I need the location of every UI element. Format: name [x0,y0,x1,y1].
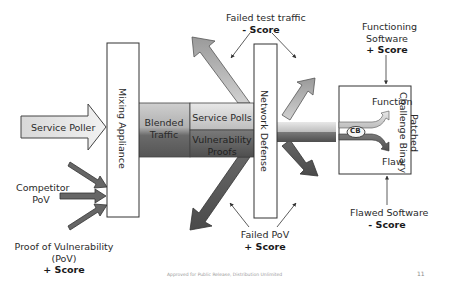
rejected-pov-arrow [190,157,250,230]
network-defense-label: Network Defense [259,90,270,172]
blended-traffic-label: Blended Traffic [140,117,188,140]
functioning-software-label: Functioning Software + Score [362,21,412,56]
failed-pov-label: Failed PoV + Score [240,229,290,252]
polls-to-cb-band [276,122,336,132]
pov-label: Proof of Vulnerability (PoV) + Score [14,241,114,276]
service-polls-label: Service Polls [191,112,253,124]
vulnerability-proofs-label: Vulnerability Proofs [191,134,253,157]
competitor-pov-arrows [60,162,107,230]
flawed-software-label: Flawed Software - Score [350,207,424,230]
failed-test-traffic-label: Failed test traffic - Score [226,12,296,35]
service-poller-label: Service Poller [31,122,95,134]
mixing-appliance-label: Mixing Appliance [117,88,128,169]
blocked-pov-arrow [282,140,318,176]
patched-cb-label: Patched Challenge Binary [398,92,420,173]
competitor-pov-label: Competitor PoV [16,182,66,205]
cb-label: CB [350,127,360,136]
footer-text: Approved for Public Release, Distributio… [167,272,282,277]
pov-to-cb-band [276,132,336,142]
rejected-service-polls-arrow [192,37,250,103]
blocked-polls-arrow [282,78,315,120]
page-number: 11 [417,270,425,277]
